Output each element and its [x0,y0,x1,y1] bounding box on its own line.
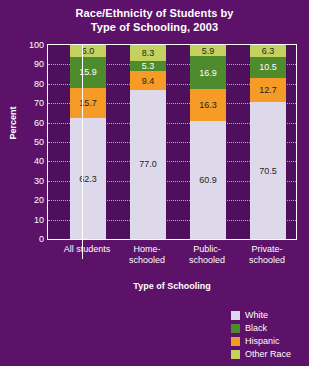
y-axis-tick-0: 0 [22,235,44,244]
x-tick-line-1: Home- [133,244,160,254]
bar-segment-value: 12.7 [259,85,277,95]
y-axis-tick-90: 90 [22,60,44,69]
legend-label: Hispanic [245,337,280,346]
bar-segment-value: 60.9 [199,175,217,185]
bar-private-schooled: 70.512.710.56.3 [250,45,286,239]
x-axis-tick-all-students: All students [56,244,118,255]
legend-item-hisp[interactable]: Hispanic [231,335,309,347]
bar-segment-black: 10.5 [250,57,286,77]
x-tick-line-2: schooled [176,255,238,266]
y-axis-tick-30: 30 [22,176,44,185]
bar-segment-value: 10.5 [259,62,277,72]
x-axis-tick-list: All studentsHome-schooledPublic-schooled… [47,244,297,278]
legend-swatch-other [231,350,240,359]
bar-home-schooled: 77.09.45.38.3 [130,45,166,239]
legend-item-white[interactable]: White [231,309,309,321]
y-axis-tick-80: 80 [22,79,44,88]
bar-segment-other: 8.3 [130,45,166,61]
bar-segment-black: 16.9 [190,56,226,89]
bar-segment-white: 70.5 [250,102,286,239]
legend-swatch-black [231,324,240,333]
legend-label: Other Race [245,350,291,359]
y-axis-tick-40: 40 [22,157,44,166]
bar-segment-black: 15.9 [70,57,106,88]
chart-legend: WhiteBlackHispanicOther Race [231,309,309,361]
y-axis-tick-10: 10 [22,215,44,224]
bar-segment-other: 6.3 [250,45,286,57]
y-axis-tick-20: 20 [22,196,44,205]
bar-segment-value: 9.4 [142,76,155,86]
x-tick-line-1: All students [64,244,111,254]
chart-title-line-2: Type of Schooling, 2003 [0,20,309,34]
x-axis-tick-public-schooled: Public-schooled [176,244,238,266]
bar-segment-value: 6.3 [262,46,275,56]
bar-segment-value: 70.5 [259,166,277,176]
bar-segment-value: 8.3 [142,48,155,58]
bar-segment-other: 5.9 [190,45,226,56]
bar-segment-hisp: 9.4 [130,71,166,89]
x-tick-line-2: schooled [236,255,298,266]
x-tick-line-1: Private- [251,244,282,254]
bar-segment-value: 16.9 [199,68,217,78]
bar-segment-value: 5.9 [202,46,215,56]
bar-segment-white: 60.9 [190,121,226,239]
bar-segment-white: 77.0 [130,90,166,239]
chart-title: Race/Ethnicity of Students by Type of Sc… [0,6,309,34]
bar-segment-hisp: 15.7 [70,88,106,118]
x-tick-line-1: Public- [193,244,221,254]
bars-layer: 62.315.715.96.077.09.45.38.360.916.316.9… [48,45,296,239]
legend-swatch-white [231,311,240,320]
x-axis-tick-home-schooled: Home-schooled [116,244,178,266]
bar-segment-other: 6.0 [70,45,106,57]
legend-swatch-hisp [231,337,240,346]
bar-segment-hisp: 12.7 [250,78,286,103]
legend-label: Black [245,324,267,333]
bar-segment-black: 5.3 [130,61,166,71]
x-axis-label: Type of Schooling [47,281,297,291]
bar-public-schooled: 60.916.316.95.9 [190,45,226,239]
y-axis-tick-list: 1009080706050403020100 [22,44,44,240]
plot-area: 62.315.715.96.077.09.45.38.360.916.316.9… [47,44,297,240]
bar-segment-value: 6.0 [82,46,95,56]
x-tick-line-2: schooled [116,255,178,266]
y-axis-tick-100: 100 [22,41,44,50]
legend-item-black[interactable]: Black [231,322,309,334]
bar-segment-value: 77.0 [139,159,157,169]
y-axis-tick-60: 60 [22,118,44,127]
bar-segment-hisp: 16.3 [190,89,226,121]
legend-item-other[interactable]: Other Race [231,348,309,360]
y-axis-label: Percent [8,93,18,153]
y-axis-tick-50: 50 [22,138,44,147]
y-axis-tick-70: 70 [22,99,44,108]
chart-title-line-1: Race/Ethnicity of Students by [0,6,309,20]
bar-segment-white: 62.3 [70,118,106,239]
bar-segment-value: 16.3 [199,100,217,110]
bar-all-students: 62.315.715.96.0 [70,45,106,239]
legend-label: White [245,311,268,320]
x-axis-tick-private-schooled: Private-schooled [236,244,298,266]
group-divider [82,44,83,259]
bar-segment-value: 5.3 [142,61,155,71]
